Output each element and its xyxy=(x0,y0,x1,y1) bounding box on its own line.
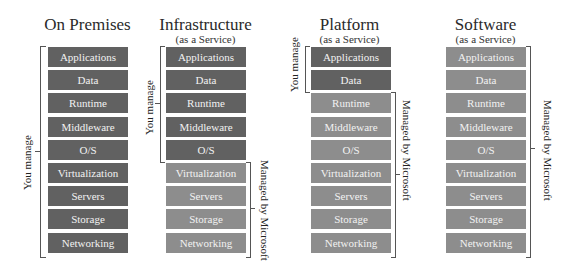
layer-box-networking: Networking xyxy=(166,233,246,253)
layer-box-data: Data xyxy=(166,70,246,90)
layer-box-servers: Servers xyxy=(48,186,128,206)
layer-box-storage: Storage xyxy=(311,209,391,229)
you-manage-label: You manage xyxy=(288,37,300,92)
layer-box-middleware: Middleware xyxy=(311,117,391,137)
you-manage-bracket xyxy=(305,46,310,93)
managed-by-microsoft-label: Managed by Microsoft xyxy=(259,160,271,261)
column-title-on-premises: On Premises xyxy=(30,16,145,34)
layer-box-middleware: Middleware xyxy=(446,117,526,137)
layer-box-runtime: Runtime xyxy=(311,93,391,113)
layer-box-networking: Networking xyxy=(48,233,128,253)
layer-box-networking: Networking xyxy=(311,233,391,253)
bracket-tick xyxy=(395,174,400,175)
layer-box-networking: Networking xyxy=(446,233,526,253)
layer-box-applications: Applications xyxy=(48,47,128,67)
layer-box-middleware: Middleware xyxy=(166,117,246,137)
managed-by-microsoft-bracket xyxy=(246,162,251,258)
layer-box-applications: Applications xyxy=(166,47,246,67)
layer-box-storage: Storage xyxy=(446,209,526,229)
managed-by-microsoft-bracket xyxy=(391,92,396,258)
layer-box-virtualization: Virtualization xyxy=(446,163,526,183)
you-manage-label: You manage xyxy=(21,135,33,190)
layer-box-applications: Applications xyxy=(446,47,526,67)
layer-box-runtime: Runtime xyxy=(48,93,128,113)
column-subtitle-software: (as a Service) xyxy=(428,33,543,45)
layer-box-middleware: Middleware xyxy=(48,117,128,137)
managed-by-microsoft-label: Managed by Microsoft xyxy=(401,100,413,201)
layer-box-o-s: O/S xyxy=(166,140,246,160)
bracket-tick xyxy=(35,151,40,152)
layer-box-o-s: O/S xyxy=(311,140,391,160)
column-title-infrastructure: Infrastructure xyxy=(148,16,263,34)
layer-box-applications: Applications xyxy=(311,47,391,67)
you-manage-label: You manage xyxy=(143,80,155,135)
layer-box-runtime: Runtime xyxy=(166,93,246,113)
column-subtitle-infrastructure: (as a Service) xyxy=(148,33,263,45)
layer-box-virtualization: Virtualization xyxy=(311,163,391,183)
bracket-tick xyxy=(250,208,255,209)
layer-box-data: Data xyxy=(446,70,526,90)
layer-box-servers: Servers xyxy=(446,186,526,206)
bracket-tick xyxy=(155,103,160,104)
managed-by-microsoft-label: Managed by Microsoft xyxy=(542,100,554,201)
layer-box-o-s: O/S xyxy=(48,140,128,160)
bracket-tick xyxy=(530,148,535,149)
layer-box-servers: Servers xyxy=(166,186,246,206)
layer-box-data: Data xyxy=(48,70,128,90)
you-manage-bracket xyxy=(40,46,46,258)
layer-box-storage: Storage xyxy=(166,209,246,229)
column-title-software: Software xyxy=(428,16,543,34)
layer-box-runtime: Runtime xyxy=(446,93,526,113)
layer-box-servers: Servers xyxy=(311,186,391,206)
layer-box-virtualization: Virtualization xyxy=(48,163,128,183)
layer-box-virtualization: Virtualization xyxy=(166,163,246,183)
layer-box-o-s: O/S xyxy=(446,140,526,160)
layer-box-data: Data xyxy=(311,70,391,90)
managed-by-microsoft-bracket xyxy=(526,46,531,258)
column-subtitle-platform: (as a Service) xyxy=(292,33,407,45)
layer-box-storage: Storage xyxy=(48,209,128,229)
you-manage-bracket xyxy=(160,46,165,163)
column-title-platform: Platform xyxy=(292,16,407,34)
